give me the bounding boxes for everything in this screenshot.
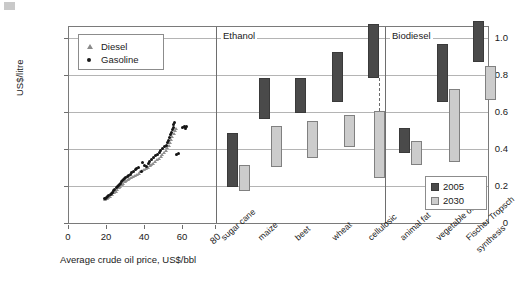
bar-2030-vegetable-oil xyxy=(449,89,460,162)
legend-entry-gasoline: Gasoline xyxy=(87,54,139,65)
legend-label-2030: 2030 xyxy=(443,195,464,206)
x-tick-label-40: 40 xyxy=(132,231,156,242)
scatter-point-gasoline xyxy=(173,121,176,124)
scatter-point-gasoline xyxy=(165,144,168,147)
scatter-point-gasoline xyxy=(170,131,173,134)
legend-label-2005: 2005 xyxy=(443,181,464,192)
scatter-point-gasoline xyxy=(168,136,171,139)
legend-entry-2005: 2005 xyxy=(431,181,464,192)
bar-2030-fischer-tropsch xyxy=(485,66,496,100)
x-tickmark-20 xyxy=(106,225,107,229)
gridline-0.6 xyxy=(69,112,488,113)
bar-2005-wheat xyxy=(332,52,343,102)
bar-2030-animal-fat xyxy=(411,141,422,165)
bar-2030-beet xyxy=(307,121,318,158)
cellulosic-connector xyxy=(379,78,380,111)
x-axis-title: Average crude oil price, US$/bbl xyxy=(60,254,196,265)
legend-entry-diesel: Diesel xyxy=(87,41,127,52)
panel-divider-biodiesel xyxy=(385,27,386,223)
bar-2005-fischer-tropsch xyxy=(473,21,484,62)
x-tick-label-20: 20 xyxy=(94,231,118,242)
bar-2005-animal-fat xyxy=(399,128,410,153)
swatch-2005-icon xyxy=(431,183,439,191)
scatter-legend: Diesel Gasoline xyxy=(78,34,164,70)
bar-2030-maize xyxy=(271,126,282,167)
scatter-point-gasoline xyxy=(185,125,188,128)
bar-2005-beet xyxy=(295,78,306,113)
bar-legend: 2005 2030 xyxy=(425,176,487,210)
scatter-point-gasoline xyxy=(172,126,175,129)
bar-2005-vegetable-oil xyxy=(437,44,448,102)
panel-divider-ethanol xyxy=(216,27,217,223)
scatter-point-diesel xyxy=(162,151,166,154)
x-tick-label-60: 60 xyxy=(170,231,194,242)
legend-label-gasoline: Gasoline xyxy=(101,54,139,65)
section-title-ethanol: Ethanol xyxy=(221,30,257,41)
section-title-biodiesel: Biodiesel xyxy=(390,30,433,41)
gridline-0.8 xyxy=(69,75,488,76)
legend-label-diesel: Diesel xyxy=(101,41,127,52)
bar-2005-sugar-cane xyxy=(227,133,238,187)
bar-2005-maize xyxy=(259,78,270,119)
triangle-marker-icon xyxy=(87,41,101,52)
swatch-2030-icon xyxy=(431,197,439,205)
x-tickmark-0 xyxy=(68,225,69,229)
scatter-point-gasoline xyxy=(167,139,170,142)
x-tickmark-40 xyxy=(144,225,145,229)
bar-2030-sugar-cane xyxy=(239,165,250,191)
x-tick-label-0: 0 xyxy=(56,231,80,242)
x-tickmark-80 xyxy=(215,225,216,229)
legend-entry-2030: 2030 xyxy=(431,195,464,206)
corner-marker xyxy=(4,2,15,10)
bar-2030-wheat xyxy=(344,115,355,147)
bar-2030-cellulosic xyxy=(374,111,385,178)
category-label-beet: beet xyxy=(293,224,312,243)
scatter-point-gasoline xyxy=(145,165,148,168)
y-axis-label: US$/litre xyxy=(14,60,25,96)
circle-marker-icon xyxy=(87,54,101,65)
bar-2005-cellulosic xyxy=(368,24,379,78)
x-tickmark-60 xyxy=(182,225,183,229)
scatter-point-diesel xyxy=(174,127,178,130)
